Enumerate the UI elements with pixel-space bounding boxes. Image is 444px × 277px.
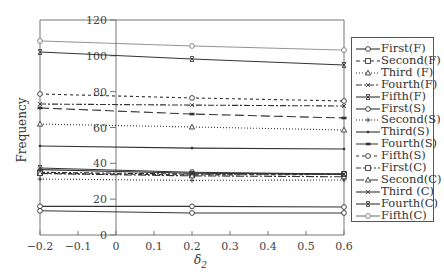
series-fourthf xyxy=(38,102,346,108)
series-fifths xyxy=(38,92,347,104)
series-thirdf xyxy=(37,121,346,132)
legend-line-icon xyxy=(355,114,381,126)
legend-line-icon xyxy=(355,79,381,91)
legend-line-icon xyxy=(355,67,381,79)
series-fifthf xyxy=(38,50,346,68)
legend-line-icon xyxy=(355,210,381,222)
x-axis-ticks: −0.2−0.100.10.20.30.40.50.6 xyxy=(27,231,353,253)
x-tick-label: −0.1 xyxy=(65,240,92,253)
series-thirds xyxy=(39,145,346,151)
legend-line-icon xyxy=(355,43,381,55)
y-tick-label: 40 xyxy=(93,157,107,170)
legend-line-icon xyxy=(355,103,381,115)
y-tick-label: 100 xyxy=(86,50,107,63)
x-tick-label: 0 xyxy=(113,240,120,253)
x-tick-label: 0.5 xyxy=(297,240,315,253)
series-fourths xyxy=(38,107,347,120)
y-axis-label: Frequency xyxy=(15,97,29,162)
legend-line-icon xyxy=(355,150,381,162)
y-tick-label: 80 xyxy=(93,86,107,99)
x-axis-label: δ2 xyxy=(194,253,207,270)
x-tick-label: 0.3 xyxy=(221,240,239,253)
x-tick-label: 0.6 xyxy=(335,240,353,253)
series-firsts xyxy=(38,204,347,210)
y-axis-ticks: 020406080100120 xyxy=(86,14,116,242)
legend-line-icon xyxy=(355,162,381,174)
x-tick-label: 0.4 xyxy=(259,240,277,253)
legend-line-icon xyxy=(355,138,381,150)
legend-line-icon xyxy=(355,126,381,138)
series-firstf xyxy=(38,208,347,215)
y-tick-label: 60 xyxy=(93,122,107,135)
series-fifthc xyxy=(38,39,347,53)
legend-line-icon xyxy=(355,186,381,198)
y-tick-label: 0 xyxy=(100,229,107,242)
x-tick-label: 0.2 xyxy=(183,240,201,253)
series-lines xyxy=(37,39,346,216)
x-tick-label: 0.1 xyxy=(145,240,163,253)
legend-line-icon xyxy=(355,55,381,67)
legend-line-icon xyxy=(355,198,381,210)
x-tick-label: −0.2 xyxy=(27,240,54,253)
legend-line-icon xyxy=(355,174,381,186)
legend-line-icon xyxy=(355,91,381,103)
y-tick-label: 20 xyxy=(93,193,107,206)
legend-label: Fifth(C) xyxy=(381,208,427,222)
chart-legend: First(F)Second(F)Third (F)Fourth(F)Fifth… xyxy=(351,37,434,222)
legend-item: Fifth(C) xyxy=(352,210,435,222)
y-tick-label: 120 xyxy=(86,14,107,27)
